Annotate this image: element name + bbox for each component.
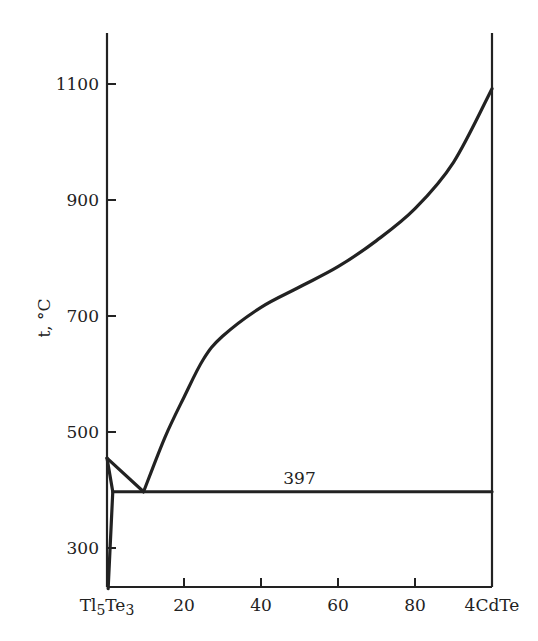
y-tick-label: 300 [67, 538, 99, 558]
x-tick-label: 40 [250, 595, 272, 615]
eutectic-label: 397 [283, 468, 315, 488]
y-tick-label: 1100 [56, 74, 99, 94]
y-axis-label: t, °C [34, 298, 54, 337]
x-tick-label: Tl5Te3 [80, 595, 135, 618]
y-tick-label: 900 [67, 190, 99, 210]
x-tick-label: 20 [173, 595, 195, 615]
y-tick-label: 700 [67, 306, 99, 326]
y-tick-label: 500 [67, 422, 99, 442]
liquidus-CdTe-side [144, 89, 492, 492]
plot-frame [107, 33, 492, 587]
phase-diagram: 3005007009001100 Tl5Te3204060804CdTe t, … [0, 0, 538, 641]
x-axis-ticks: Tl5Te3204060804CdTe [80, 578, 520, 618]
phase-curves [107, 89, 492, 589]
annotations: 397 [283, 468, 315, 488]
x-tick-label: 4CdTe [465, 595, 520, 615]
x-tick-label: 60 [327, 595, 349, 615]
x-tick-label: 80 [404, 595, 426, 615]
